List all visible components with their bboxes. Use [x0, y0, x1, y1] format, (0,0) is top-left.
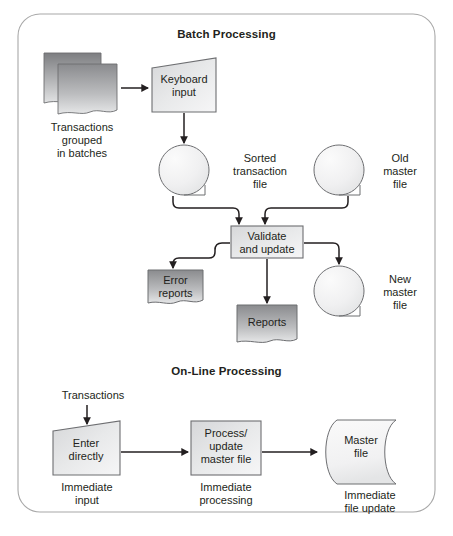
sorted-transaction-file-label: Sorted transaction file [213, 152, 307, 191]
validate-and-update-label: Validate and update [230, 230, 304, 256]
error-reports-label: Error reports [147, 274, 204, 300]
old-master-line-2: master [369, 165, 431, 178]
transactions-stack-caption: Transactions grouped in batches [22, 121, 142, 160]
connector-old-master-to-validate [265, 196, 348, 224]
process-update-caption: Immediate processing [179, 481, 273, 507]
process-update-line-1: Process/ [189, 427, 263, 440]
sorted-file-line-2: transaction [213, 165, 307, 178]
enter-directly-caption: Immediate input [40, 481, 134, 507]
sorted-file-line-3: file [213, 178, 307, 191]
transactions-caption-line-2: grouped [22, 134, 142, 147]
transactions-stack-icon [44, 53, 117, 114]
process-update-label: Process/ update master file [189, 427, 263, 465]
enter-directly-label: Enter directly [52, 437, 120, 463]
connector-sorted-file-to-validate [173, 196, 239, 224]
enter-directly-caption-line-2: input [40, 494, 134, 507]
enter-directly-line-2: directly [52, 450, 120, 463]
master-file-caption: Immediate file update [318, 489, 422, 515]
section-title-online-processing: On-Line Processing [0, 365, 453, 379]
reports-line-1: Reports [237, 316, 297, 329]
section-title-batch-processing: Batch Processing [0, 28, 453, 42]
transactions-caption-line-1: Transactions [22, 121, 142, 134]
master-file-line-2: file [330, 447, 392, 460]
validate-line-2: and update [230, 243, 304, 256]
new-master-file-shape [314, 266, 364, 316]
error-reports-line-1: Error [147, 274, 204, 287]
process-update-line-2: update [189, 440, 263, 453]
keyboard-input-line-1: Keyboard [150, 73, 218, 86]
new-master-file-label: New master file [369, 273, 431, 312]
online-transactions-label: Transactions [38, 389, 148, 402]
sorted-file-line-1: Sorted [213, 152, 307, 165]
master-file-label: Master file [330, 434, 392, 460]
process-update-caption-line-1: Immediate [179, 481, 273, 494]
connector-validate-to-error-reports [173, 243, 230, 268]
transactions-caption-line-3: in batches [22, 147, 142, 160]
flowchart-diagram: Batch Processing On-Line Processing Tran… [0, 0, 453, 536]
validate-line-1: Validate [230, 230, 304, 243]
new-master-line-3: file [369, 299, 431, 312]
old-master-line-3: file [369, 178, 431, 191]
connector-validate-to-new-master [304, 243, 339, 264]
enter-directly-caption-line-1: Immediate [40, 481, 134, 494]
keyboard-input-label: Keyboard input [150, 73, 218, 99]
new-master-line-2: master [369, 286, 431, 299]
master-file-caption-line-2: file update [318, 502, 422, 515]
old-master-line-1: Old [369, 152, 431, 165]
old-master-file-shape [314, 145, 364, 195]
sorted-transaction-file-shape [159, 145, 209, 195]
process-update-caption-line-2: processing [179, 494, 273, 507]
old-master-file-label: Old master file [369, 152, 431, 191]
process-update-line-3: master file [189, 453, 263, 466]
enter-directly-line-1: Enter [52, 437, 120, 450]
error-reports-line-2: reports [147, 287, 204, 300]
master-file-caption-line-1: Immediate [318, 489, 422, 502]
reports-label: Reports [237, 316, 297, 329]
master-file-line-1: Master [330, 434, 392, 447]
keyboard-input-line-2: input [150, 86, 218, 99]
new-master-line-1: New [369, 273, 431, 286]
